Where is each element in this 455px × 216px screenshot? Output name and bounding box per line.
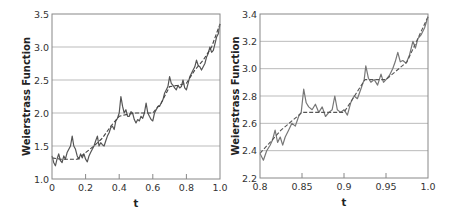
x-tick-label: 0.85 — [291, 181, 312, 192]
gridlines — [52, 47, 220, 146]
left-chart-panel: 1.01.52.02.53.03.500.20.40.60.81.0tWeier… — [0, 0, 228, 216]
x-tick-label: 0.8 — [179, 182, 194, 193]
weierstrass-line — [52, 24, 220, 166]
right-chart-panel: 2.22.42.62.83.03.23.40.80.850.90.951.0tW… — [228, 0, 455, 216]
y-tick-label: 3.0 — [242, 63, 257, 74]
x-tick-label: 0.2 — [78, 182, 93, 193]
x-tick-label: 1.0 — [212, 182, 227, 193]
y-tick-label: 3.0 — [34, 42, 49, 53]
x-tick-label: 0.95 — [375, 181, 396, 192]
weierstrass-line — [260, 17, 428, 161]
y-tick-label: 3.2 — [242, 36, 257, 47]
y-tick-label: 3.4 — [242, 9, 257, 20]
y-tick-label: 3.5 — [34, 9, 49, 20]
gridlines — [260, 41, 428, 150]
y-tick-label: 1.5 — [34, 141, 49, 152]
x-axis-title: t — [342, 197, 347, 208]
y-tick-label: 2.4 — [242, 145, 257, 156]
y-axis-title: Weierstrass Function — [230, 36, 241, 155]
x-tick-label: 0 — [49, 182, 55, 193]
y-tick-label: 2.5 — [34, 75, 49, 86]
y-tick-label: 2.6 — [242, 118, 257, 129]
y-axis-title: Weierstrass Function — [21, 37, 32, 156]
right-chart: 2.22.42.62.83.03.23.40.80.850.90.951.0tW… — [228, 0, 455, 216]
x-tick-label: 0.9 — [336, 181, 351, 192]
x-axis-title: t — [134, 198, 139, 209]
x-tick-label: 0.6 — [145, 182, 160, 193]
y-tick-label: 2.0 — [34, 108, 49, 119]
left-chart: 1.01.52.02.53.03.500.20.40.60.81.0tWeier… — [0, 0, 228, 216]
y-tick-label: 1.0 — [34, 174, 49, 185]
trend-line — [260, 17, 428, 154]
x-tick-label: 0.8 — [252, 181, 267, 192]
trend-line — [52, 24, 220, 159]
x-tick-label: 0.4 — [112, 182, 127, 193]
x-tick-label: 1.0 — [420, 181, 435, 192]
y-tick-label: 2.8 — [242, 91, 257, 102]
